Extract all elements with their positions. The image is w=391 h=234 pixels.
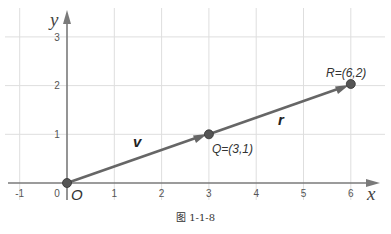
x-tick: 4 [253,188,259,199]
figure-caption: 图 1-1-8 [0,209,391,224]
point-o [63,179,72,188]
x-tick: 6 [348,188,354,199]
y-axis-arrow-icon [63,10,71,24]
x-tick: 0 [54,188,60,199]
coordinate-plane: -1 0 1 2 3 4 5 6 1 2 3 y x O v r Q=(3,1)… [0,0,391,234]
y-axis-label: y [48,9,59,30]
x-tick: 3 [206,188,212,199]
x-axis-label: x [366,183,376,204]
vector-r-label: r [278,111,285,128]
x-tick: 2 [159,188,165,199]
y-tick: 3 [54,32,60,43]
origin-label: O [71,186,83,203]
point-r [346,80,355,89]
y-tick: 1 [54,129,60,140]
y-tick-labels: 1 2 3 [54,32,60,140]
y-tick: 2 [54,80,60,91]
point-q-label: Q=(3,1) [212,142,253,156]
x-tick-labels: -1 0 1 2 3 4 5 6 [15,188,354,199]
point-r-label: R=(6,2) [326,66,366,80]
grid [5,8,385,200]
x-tick: 1 [112,188,118,199]
point-q [204,130,213,139]
x-tick: -1 [15,188,24,199]
axes [8,10,380,200]
x-tick: 5 [301,188,307,199]
vector-v-label: v [133,133,143,150]
